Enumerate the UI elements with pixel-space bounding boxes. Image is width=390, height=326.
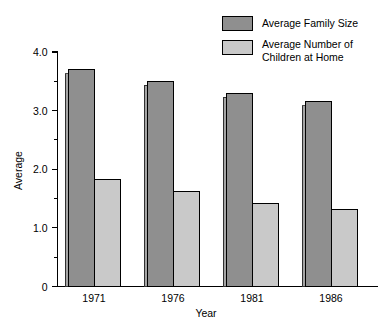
legend-swatch-average-family-size: [222, 16, 252, 30]
x-tick-label: 1976: [161, 292, 185, 304]
bar: [147, 81, 173, 286]
y-tick-label: 4.0: [33, 46, 48, 58]
legend-label-children-line2: Children at Home: [262, 51, 344, 63]
y-tick-label: 2.0: [33, 163, 48, 175]
legend-label-average-family-size: Average Family Size: [262, 17, 358, 29]
bar: [252, 203, 278, 286]
bar: [226, 93, 252, 286]
chart-canvas: Average Family Size Average Number of Ch…: [0, 0, 390, 326]
y-tick-label: 1.0: [33, 222, 48, 234]
x-tick-label: 1981: [240, 292, 264, 304]
legend-item-average-family-size: Average Family Size: [222, 16, 358, 30]
bar: [305, 102, 331, 287]
bar: [173, 192, 199, 287]
bar-chart: Average Family Size Average Number of Ch…: [0, 0, 390, 326]
legend-swatch-average-number-of-children: [222, 40, 252, 54]
x-axis-title: Year: [195, 307, 217, 319]
x-tick-label: 1986: [319, 292, 343, 304]
y-tick-label: 0: [42, 281, 48, 293]
y-tick-label: 3.0: [33, 105, 48, 117]
y-axis-title: Average: [12, 151, 24, 190]
bar: [68, 70, 94, 287]
bar: [94, 180, 120, 287]
bar: [331, 209, 357, 286]
legend-label-children-line1: Average Number of: [262, 38, 353, 50]
x-tick-label: 1971: [82, 292, 106, 304]
